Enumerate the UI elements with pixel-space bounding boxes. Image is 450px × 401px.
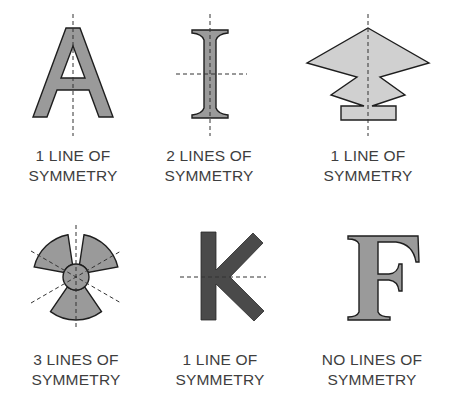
figure-letter-f: [348, 236, 419, 320]
label-figure-f: NO LINES OF SYMMETRY: [297, 350, 447, 390]
label-line-2: SYMMETRY: [134, 166, 284, 186]
label-line-1: 1 LINE OF: [293, 146, 443, 166]
symmetry-diagram: [0, 0, 450, 401]
figure-letter-i: [176, 14, 247, 136]
label-line-1: 1 LINE OF: [145, 350, 295, 370]
label-line-1: 3 LINES OF: [1, 350, 151, 370]
label-line-2: SYMMETRY: [0, 166, 148, 186]
figure-trefoil: [31, 225, 121, 329]
label-line-2: SYMMETRY: [293, 166, 443, 186]
label-figure-a: 1 LINE OF SYMMETRY: [0, 146, 148, 186]
trefoil-blade-upper-left: [34, 235, 72, 273]
label-figure-trefoil: 3 LINES OF SYMMETRY: [1, 350, 151, 390]
label-figure-k: 1 LINE OF SYMMETRY: [145, 350, 295, 390]
letter-f-shape: [348, 236, 419, 320]
figure-letter-a: [33, 14, 113, 136]
figure-letter-k: [180, 232, 266, 321]
trefoil-blade-upper-right: [80, 235, 118, 273]
label-line-2: SYMMETRY: [145, 370, 295, 390]
label-line-2: SYMMETRY: [1, 370, 151, 390]
label-figure-i: 2 LINES OF SYMMETRY: [134, 146, 284, 186]
label-line-2: SYMMETRY: [297, 370, 447, 390]
label-line-1: 1 LINE OF: [0, 146, 148, 166]
figure-arrow-shape: [307, 14, 429, 136]
label-figure-arrow: 1 LINE OF SYMMETRY: [293, 146, 443, 186]
label-line-1: NO LINES OF: [297, 350, 447, 370]
label-line-1: 2 LINES OF: [134, 146, 284, 166]
